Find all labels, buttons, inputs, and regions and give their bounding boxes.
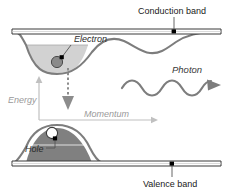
valence-band-leader [170, 162, 174, 177]
momentum-axis-label: Momentum [84, 109, 130, 119]
band-diagram-canvas: Conduction band Valence band Electron Ho… [0, 0, 228, 194]
band-diagram-figure: Conduction band Valence band Electron Ho… [0, 0, 228, 194]
valence-band-label: Valence band [143, 179, 197, 189]
conduction-band-leader [172, 17, 176, 33]
conduction-band-bar [12, 29, 221, 34]
hole-label: Hole [25, 144, 44, 154]
conduction-band-label: Conduction band [138, 6, 206, 16]
valence-band-bar [12, 161, 221, 166]
energy-axis-label: Energy [8, 95, 37, 105]
photon-label: Photon [172, 64, 202, 75]
energy-axis-arrow [36, 76, 43, 120]
electron-label: Electron [74, 34, 107, 44]
photon-wave [122, 80, 221, 96]
